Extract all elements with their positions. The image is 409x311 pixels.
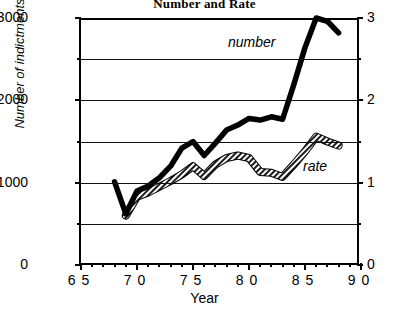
x-axis-minor-tick xyxy=(282,263,284,267)
x-axis-tick-label: 7 0 xyxy=(115,272,155,288)
x-axis-minor-tick xyxy=(270,263,272,267)
x-axis-tick-label: 6 5 xyxy=(59,272,99,288)
x-axis-tick-label: 9 0 xyxy=(339,272,379,288)
y-axis-left-minor-tick xyxy=(77,58,81,60)
y-axis-left-tick-label: 1000 xyxy=(0,174,28,190)
y-axis-left-tick xyxy=(75,99,81,101)
gridline xyxy=(81,59,357,60)
x-axis-tick xyxy=(80,263,82,270)
gridline xyxy=(81,224,357,225)
x-axis-minor-tick xyxy=(170,263,172,267)
x-axis-minor-tick xyxy=(114,263,116,267)
x-axis-minor-tick xyxy=(158,263,160,267)
gridline xyxy=(81,100,357,101)
x-axis-minor-tick xyxy=(147,263,149,267)
x-axis-minor-tick xyxy=(293,263,295,267)
y-axis-right-minor-tick xyxy=(357,223,361,225)
y-axis-left-minor-tick xyxy=(77,223,81,225)
chart-container: Number and Rate 010002000300001236 57 07… xyxy=(0,0,409,311)
x-axis-minor-tick xyxy=(125,263,127,267)
y-axis-right-tick-label: 3 xyxy=(367,9,375,25)
series-number-line xyxy=(115,18,339,214)
x-axis-minor-tick xyxy=(259,263,261,267)
x-axis-minor-tick xyxy=(214,263,216,267)
x-axis-title: Year xyxy=(0,290,409,306)
x-axis-tick xyxy=(304,263,306,270)
y-axis-left-tick xyxy=(75,182,81,184)
y-axis-left-title: Number of indictments xyxy=(12,0,27,154)
y-axis-right-tick-label: 2 xyxy=(367,91,375,107)
series-label-rate: rate xyxy=(303,158,327,174)
y-axis-right-minor-tick xyxy=(357,141,361,143)
y-axis-right-tick-label: 0 xyxy=(367,256,375,272)
y-axis-left-minor-tick xyxy=(77,141,81,143)
x-axis-minor-tick xyxy=(315,263,317,267)
y-axis-right-tick xyxy=(357,99,363,101)
x-axis-tick xyxy=(136,263,138,270)
x-axis-minor-tick xyxy=(226,263,228,267)
y-axis-right-minor-tick xyxy=(357,58,361,60)
gridline xyxy=(81,183,357,184)
y-axis-right-tick xyxy=(357,17,363,19)
gridline xyxy=(81,142,357,143)
x-axis-minor-tick xyxy=(181,263,183,267)
y-axis-right-tick-label: 1 xyxy=(367,174,375,190)
y-axis-left-tick-label: 0 xyxy=(20,256,28,272)
y-axis-left-tick xyxy=(75,17,81,19)
x-axis-tick xyxy=(248,263,250,270)
x-axis-minor-tick xyxy=(349,263,351,267)
x-axis-tick-label: 7 5 xyxy=(171,272,211,288)
x-axis-minor-tick xyxy=(203,263,205,267)
y-axis-right-tick xyxy=(357,182,363,184)
x-axis-tick-label: 8 0 xyxy=(227,272,267,288)
x-axis-tick-label: 8 5 xyxy=(283,272,323,288)
plot-area xyxy=(79,18,359,265)
x-axis-minor-tick xyxy=(237,263,239,267)
chart-title: Number and Rate xyxy=(0,0,409,12)
x-axis-minor-tick xyxy=(102,263,104,267)
x-axis-minor-tick xyxy=(91,263,93,267)
x-axis-minor-tick xyxy=(338,263,340,267)
x-axis-minor-tick xyxy=(326,263,328,267)
x-axis-tick xyxy=(360,263,362,270)
x-axis-tick xyxy=(192,263,194,270)
series-label-number: number xyxy=(228,34,275,50)
